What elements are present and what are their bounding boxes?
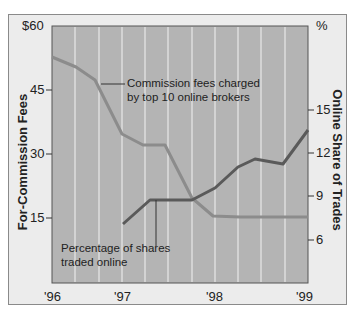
right-tick-15: 15 — [316, 103, 330, 116]
x-tick-96: '96 — [44, 290, 61, 303]
left-axis-ticks — [46, 90, 52, 218]
left-tick-30: 30 — [30, 147, 44, 160]
chart-plot — [0, 0, 356, 318]
left-tick-60: $60 — [22, 19, 44, 32]
right-axis-ticks — [308, 110, 314, 240]
left-tick-15: 15 — [30, 211, 44, 224]
share-annotation-line2: traded online — [61, 255, 170, 269]
right-unit-label: % — [316, 19, 328, 32]
right-tick-9: 9 — [316, 189, 323, 202]
commission-annotation-line2: by top 10 online brokers — [127, 90, 260, 104]
x-tick-98: '98 — [206, 290, 223, 303]
share-annotation-line1: Percentage of shares — [61, 241, 170, 255]
x-tick-97: '97 — [114, 290, 131, 303]
left-tick-45: 45 — [30, 83, 44, 96]
commission-annotation-line1: Commission fees charged — [127, 76, 260, 90]
x-tick-99: '99 — [296, 290, 313, 303]
right-axis-title: Online Share of Trades — [330, 89, 345, 231]
right-tick-6: 6 — [316, 233, 323, 246]
left-axis-title: For-Commission Fees — [15, 94, 30, 231]
commission-annotation: Commission fees charged by top 10 online… — [127, 76, 260, 104]
share-annotation: Percentage of shares traded online — [61, 241, 170, 269]
right-tick-12: 12 — [316, 146, 330, 159]
